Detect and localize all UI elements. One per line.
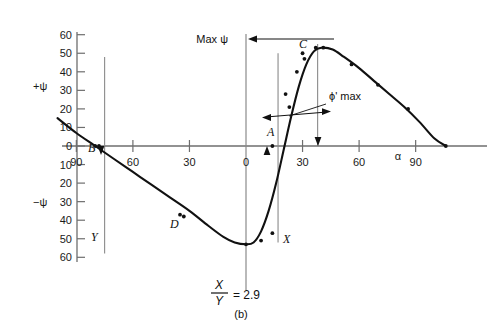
y-tick-label: 30 — [60, 196, 72, 208]
data-point — [182, 215, 186, 219]
x-tick-label: 60 — [353, 156, 365, 168]
marker-label-X: X — [282, 232, 291, 246]
marker-label-Y: Y — [91, 230, 99, 244]
data-point — [406, 107, 410, 111]
y-tick-label: 40 — [60, 66, 72, 78]
ratio-value: = 2.9 — [233, 288, 260, 302]
x-tick-label: 0 — [243, 156, 249, 168]
y-axis-label-positive: +ψ — [33, 80, 47, 92]
max-psi-annotation: Max ψ — [196, 33, 334, 45]
max-line-arrowhead-down — [315, 137, 322, 146]
phi-max-arrowhead-right — [322, 108, 331, 115]
data-point — [376, 83, 380, 87]
max-psi-arrowhead — [248, 36, 257, 43]
data-point — [295, 70, 299, 74]
max-psi-label: Max ψ — [196, 33, 228, 45]
figure-caption: (b) — [234, 308, 247, 320]
x-tick-label: 30 — [296, 156, 308, 168]
ratio-denominator: Y — [215, 294, 224, 308]
y-axis-label-negative: −ψ — [33, 196, 47, 208]
marker-point-C — [301, 51, 305, 55]
point-label-D: D — [169, 217, 179, 231]
point-label-A: A — [266, 125, 275, 139]
figure-container: 6050403020100102030405060 9060300306090 … — [0, 0, 495, 330]
data-point — [350, 62, 354, 66]
data-point — [284, 92, 288, 96]
x-tick-label: 90 — [410, 156, 422, 168]
y-tick-label: 60 — [60, 29, 72, 41]
x-tick-label: 60 — [127, 156, 139, 168]
data-point — [244, 242, 248, 246]
phi-max-annotation: ϕ' max — [98, 90, 362, 155]
psi-alpha-chart: 6050403020100102030405060 9060300306090 … — [0, 0, 495, 330]
y-tick-label: 30 — [60, 84, 72, 96]
y-tick-label: 50 — [60, 233, 72, 245]
a-line-arrowhead-up — [264, 146, 271, 155]
construction-lines — [105, 44, 318, 254]
y-tick-label: 20 — [60, 103, 72, 115]
ratio-annotation: X Y = 2.9 (b) — [211, 278, 260, 320]
point-label-B: B — [88, 141, 96, 155]
ratio-numerator: X — [214, 278, 224, 292]
data-point — [287, 105, 291, 109]
phi-max-label: ϕ' max — [329, 90, 362, 102]
y-tick-label: 20 — [60, 177, 72, 189]
y-tick-label: 50 — [60, 47, 72, 59]
x-axis-label: α — [395, 150, 402, 162]
data-point — [321, 46, 325, 50]
axes-group — [62, 32, 487, 290]
marker-point-A — [270, 144, 274, 148]
y-tick-label: 40 — [60, 214, 72, 226]
data-point — [270, 231, 274, 235]
data-point — [444, 144, 448, 148]
marker-point-D — [178, 213, 182, 217]
y-tick-label: 60 — [60, 251, 72, 263]
data-point — [303, 57, 307, 61]
data-point — [259, 239, 263, 243]
phi-max-arrowhead-left — [262, 114, 271, 121]
x-tick-label: 90 — [70, 156, 82, 168]
data-point — [314, 46, 318, 50]
y-tick-label: 0 — [66, 140, 72, 152]
x-tick-label: 30 — [183, 156, 195, 168]
